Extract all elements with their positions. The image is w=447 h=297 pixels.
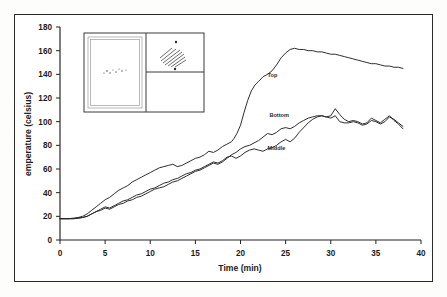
series-label-middle: Middle: [268, 145, 286, 151]
x-tick-label: 0: [58, 249, 63, 258]
y-tick-label: 0: [47, 236, 52, 245]
y-tick-label: 120: [38, 94, 52, 103]
inset-lower-dot: [174, 68, 176, 70]
y-tick-label: 160: [38, 47, 52, 56]
y-tick-label: 40: [43, 189, 53, 198]
y-axis-tick-labels: 020406080100120140160180: [38, 23, 52, 245]
series-label-bottom: Bottom: [269, 112, 289, 118]
x-tick-label: 5: [103, 249, 108, 258]
x-tick-label: 20: [236, 249, 246, 258]
series-line-middle: [60, 116, 403, 219]
series-label-top: Top: [268, 72, 278, 78]
y-tick-label: 140: [38, 70, 52, 79]
y-axis-ticks: [56, 27, 60, 240]
x-axis-ticks: [60, 240, 421, 244]
inset-upper-dot: [175, 41, 177, 43]
x-tick-label: 10: [146, 249, 156, 258]
apparatus-schematic-inset: [84, 33, 204, 112]
y-axis-title: emperature (celsius): [23, 92, 33, 176]
x-tick-label: 40: [416, 249, 426, 258]
x-axis-title: Time (min): [218, 263, 261, 273]
chart-canvas: 0510152025303540 02040608010012014016018…: [0, 0, 447, 297]
y-tick-label: 60: [43, 165, 53, 174]
series-line-bottom: [60, 109, 403, 219]
y-tick-label: 180: [38, 23, 52, 32]
y-tick-label: 100: [38, 118, 52, 127]
x-tick-label: 15: [191, 249, 201, 258]
x-axis-tick-labels: 0510152025303540: [58, 249, 426, 258]
x-tick-label: 30: [326, 249, 336, 258]
x-tick-label: 25: [281, 249, 291, 258]
figure-container: 0510152025303540 02040608010012014016018…: [0, 0, 447, 297]
x-tick-label: 35: [371, 249, 381, 258]
y-tick-label: 20: [43, 212, 53, 221]
y-tick-label: 80: [43, 141, 53, 150]
